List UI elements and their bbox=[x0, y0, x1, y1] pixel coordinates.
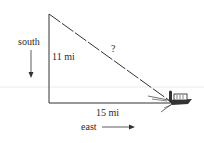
hypotenuse-label: ? bbox=[111, 44, 115, 54]
down-arrow-icon bbox=[29, 50, 34, 78]
horizontal-leg-label: 15 mi bbox=[96, 108, 119, 118]
south-label: south bbox=[18, 37, 40, 47]
east-label: east bbox=[81, 122, 97, 132]
vertical-leg-label: 11 mi bbox=[52, 52, 75, 62]
triangle-diagram: south 11 mi ? 15 mi east bbox=[0, 0, 204, 143]
diagram-svg bbox=[0, 0, 204, 143]
boat-icon bbox=[148, 91, 192, 113]
right-arrow-icon bbox=[102, 125, 135, 130]
